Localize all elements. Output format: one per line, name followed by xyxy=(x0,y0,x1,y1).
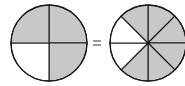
fraction-diagram xyxy=(0,0,185,86)
equals-sign xyxy=(93,41,101,45)
right-circle-eighths xyxy=(110,5,185,81)
left-circle-fourths xyxy=(11,5,87,81)
